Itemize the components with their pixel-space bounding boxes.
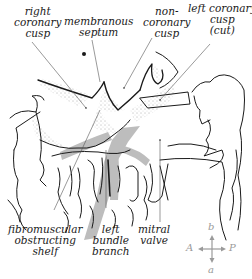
label-line: septum [64,27,133,38]
orientation-compass [198,235,226,263]
label-line: shelf [8,246,82,257]
compass-label-up: b [208,221,214,232]
label-right-coronary-cusp: right coronary cusp [14,6,62,39]
label-fibromuscular-shelf: fibromuscular obstructing shelf [8,224,82,257]
compass-label-down: a [208,264,214,275]
label-left-bundle-branch: left bundle branch [92,224,129,257]
label-non-coronary-cusp: non- coronary cusp [143,6,191,39]
label-line: valve [138,235,170,246]
label-mitral-valve: mitral valve [138,224,170,246]
compass-label-right: P [229,242,236,253]
label-membranous-septum: membranous septum [64,16,133,38]
anatomy-diagram: right coronary cusp membranous septum no… [0,0,252,279]
compass-label-left: A [186,242,193,253]
label-line: (cut) [188,25,252,36]
label-left-coronary-cusp: left coronary cusp (cut) [188,3,252,36]
label-line: cusp [14,28,62,39]
label-line: branch [92,246,129,257]
label-line: cusp [143,28,191,39]
